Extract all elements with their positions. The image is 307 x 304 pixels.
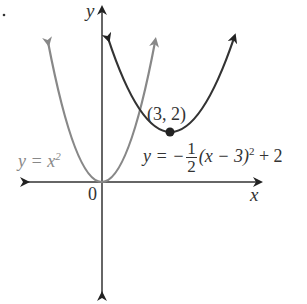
curve2-label-tail: + 2 <box>254 146 282 166</box>
y-axis-label: y <box>86 0 94 22</box>
origin-label: 0 <box>88 184 97 205</box>
label-shifted-parabola: y = −12(x − 3)2 + 2 <box>143 140 283 175</box>
x-axis-label: x <box>250 184 258 206</box>
bullet-marker <box>3 14 6 17</box>
curve2-label-suffix: (x − 3) <box>199 146 249 166</box>
fraction-numerator: 1 <box>186 140 197 158</box>
vertex-label: (3, 2) <box>147 104 186 125</box>
fraction-denominator: 2 <box>186 158 197 175</box>
label-y-equals-x-squared: y = x2 <box>18 150 61 172</box>
vertex-point <box>166 128 175 137</box>
curve1-label-exp: 2 <box>55 150 61 162</box>
fraction: 12 <box>186 140 197 175</box>
curve2-label-prefix: y = − <box>143 146 184 166</box>
graph-figure: y x 0 (3, 2) y = x2 y = −12(x − 3)2 + 2 <box>0 0 307 304</box>
curve1-label-text: y = x <box>18 151 55 171</box>
